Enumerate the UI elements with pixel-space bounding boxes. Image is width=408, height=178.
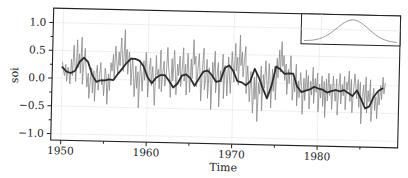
x-tick-label: 1960 <box>132 146 159 159</box>
y-axis: −1.0−0.50.00.51.0 <box>18 15 53 139</box>
x-tick-label: 1970 <box>218 148 245 161</box>
y-tick-label: 0.5 <box>29 43 46 55</box>
x-axis-title: Time <box>209 161 237 175</box>
y-tick-label: 0.0 <box>28 71 45 83</box>
x-tick-label: 1980 <box>303 150 330 163</box>
soi-time-series-chart: 1950196019701980 −1.0−0.50.00.51.0 Time … <box>0 0 408 178</box>
y-tick-label: −0.5 <box>19 99 45 112</box>
y-axis-title: soi <box>8 67 21 84</box>
x-tick-label: 1950 <box>47 144 74 157</box>
y-tick-label: 1.0 <box>30 16 47 28</box>
y-tick-label: −1.0 <box>18 126 44 139</box>
density-inset <box>301 14 401 46</box>
